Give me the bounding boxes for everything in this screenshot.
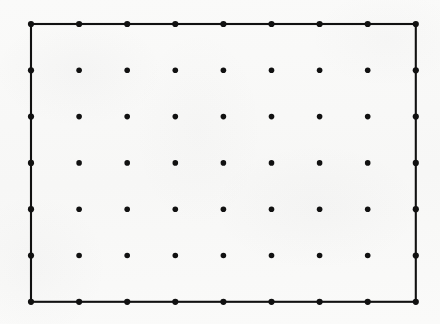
figure-page — [0, 0, 440, 324]
lattice-point-boundary — [28, 206, 34, 212]
lattice-point-boundary — [413, 67, 419, 73]
lattice-point-interior — [269, 253, 275, 259]
lattice-point-interior — [124, 253, 130, 259]
lattice-point-boundary — [268, 299, 274, 305]
lattice-point-interior — [221, 206, 227, 212]
lattice-point-interior — [269, 114, 275, 120]
lattice-point-interior — [317, 114, 323, 120]
lattice-point-interior — [365, 253, 371, 259]
lattice-point-boundary — [268, 21, 274, 27]
lattice-point-boundary — [413, 114, 419, 120]
lattice-point-boundary — [413, 252, 419, 258]
lattice-point-interior — [317, 253, 323, 259]
lattice-point-interior — [317, 68, 323, 74]
lattice-point-boundary — [76, 21, 82, 27]
lattice-point-interior — [365, 160, 371, 166]
lattice-point-interior — [173, 206, 179, 212]
lattice-point-boundary — [28, 67, 34, 73]
lattice-point-boundary — [172, 299, 178, 305]
lattice-point-boundary — [124, 299, 130, 305]
lattice-point-boundary — [76, 299, 82, 305]
lattice-point-boundary — [28, 114, 34, 120]
lattice-point-boundary — [413, 160, 419, 166]
lattice-point-interior — [173, 160, 179, 166]
lattice-point-interior — [221, 114, 227, 120]
lattice-point-interior — [269, 206, 275, 212]
lattice-point-boundary — [28, 252, 34, 258]
lattice-point-interior — [76, 114, 82, 120]
lattice-point-boundary — [413, 21, 419, 27]
lattice-point-interior — [221, 68, 227, 74]
lattice-point-interior — [124, 114, 130, 120]
lattice-point-interior — [365, 206, 371, 212]
lattice-point-boundary — [124, 21, 130, 27]
lattice-point-interior — [317, 160, 323, 166]
lattice-point-boundary — [220, 21, 226, 27]
lattice-point-interior — [317, 206, 323, 212]
lattice-point-interior — [269, 160, 275, 166]
lattice-point-interior — [365, 114, 371, 120]
lattice-point-interior — [173, 114, 179, 120]
lattice-point-interior — [221, 160, 227, 166]
lattice-point-interior — [173, 253, 179, 259]
lattice-point-boundary — [317, 21, 323, 27]
lattice-point-interior — [76, 206, 82, 212]
lattice-point-interior — [124, 68, 130, 74]
lattice-point-interior — [269, 68, 275, 74]
lattice-point-interior — [124, 206, 130, 212]
lattice-point-interior — [76, 68, 82, 74]
lattice-point-interior — [365, 68, 371, 74]
lattice-point-interior — [173, 68, 179, 74]
lattice-point-boundary — [220, 299, 226, 305]
lattice-point-interior — [76, 160, 82, 166]
lattice-point-boundary — [28, 299, 34, 305]
lattice-rectangle-figure — [0, 0, 440, 324]
lattice-point-boundary — [365, 299, 371, 305]
lattice-point-boundary — [317, 299, 323, 305]
lattice-point-interior — [221, 253, 227, 259]
lattice-point-boundary — [365, 21, 371, 27]
lattice-dots-group — [28, 21, 419, 305]
lattice-point-boundary — [413, 206, 419, 212]
lattice-point-boundary — [28, 21, 34, 27]
lattice-point-boundary — [172, 21, 178, 27]
lattice-point-interior — [124, 160, 130, 166]
lattice-point-boundary — [413, 299, 419, 305]
lattice-point-boundary — [28, 160, 34, 166]
lattice-point-interior — [76, 253, 82, 259]
